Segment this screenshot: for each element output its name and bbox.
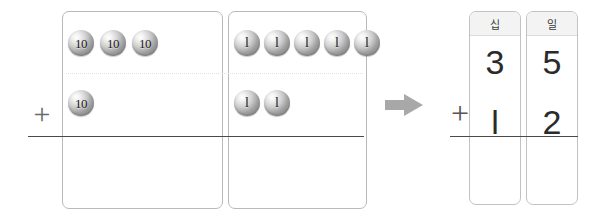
- addend-separator-dotted-line: [66, 73, 363, 74]
- addend-2-ones-tokens: l l: [234, 90, 290, 116]
- ones-digit-addend-2[interactable]: 2: [527, 105, 577, 139]
- addend-1-tens-tokens: 10 10 10: [68, 30, 158, 56]
- tens-digit-addend-1[interactable]: 3: [470, 45, 520, 79]
- answer-rule-left: [28, 136, 364, 137]
- answer-rule-right: [450, 136, 578, 137]
- worksheet-canvas: 10 10 10 10 l l l l l l l + + 십 3 l 일 5 …: [0, 0, 597, 221]
- addend-1-ones-tokens: l l l l l: [234, 30, 380, 56]
- one-disc-token[interactable]: l: [324, 30, 350, 56]
- numeric-column-tens: 십 3 l: [469, 11, 521, 205]
- one-disc-token[interactable]: l: [294, 30, 320, 56]
- one-disc-token[interactable]: l: [354, 30, 380, 56]
- one-disc-token[interactable]: l: [234, 30, 260, 56]
- ones-digit-addend-1[interactable]: 5: [527, 45, 577, 79]
- ten-disc-token[interactable]: 10: [132, 30, 158, 56]
- plus-operator-left: +: [28, 100, 56, 128]
- one-disc-token[interactable]: l: [234, 90, 260, 116]
- one-disc-token[interactable]: l: [264, 30, 290, 56]
- tens-digit-addend-2[interactable]: l: [470, 105, 520, 139]
- numeric-column-ones: 일 5 2: [526, 11, 578, 205]
- ten-disc-token[interactable]: 10: [68, 90, 94, 116]
- arrow-right-icon: [385, 93, 425, 117]
- ten-disc-token[interactable]: 10: [68, 30, 94, 56]
- ten-disc-token[interactable]: 10: [100, 30, 126, 56]
- addend-2-tens-tokens: 10: [68, 90, 94, 116]
- column-header-tens: 십: [470, 12, 520, 36]
- column-header-ones: 일: [527, 12, 577, 36]
- one-disc-token[interactable]: l: [264, 90, 290, 116]
